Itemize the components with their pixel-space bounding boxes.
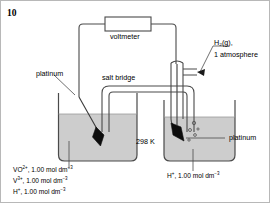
left-solution-line-1: VO2+, 1.00 mol dm−3	[13, 167, 73, 174]
diagram-figure: 10 voltmeter salt bridge platinum platin…	[0, 0, 270, 203]
platinum-label-left: platinum	[36, 70, 63, 78]
hydrogen-gas-label-line1: H₂(g),	[214, 39, 233, 47]
conc-3: , 1.00 mol dm	[20, 188, 60, 195]
exp-3: −3	[60, 187, 65, 192]
voltmeter-label: voltmeter	[110, 33, 140, 41]
left-solution-line-2: V3+, 1.00 mol dm−3	[13, 178, 68, 185]
exp-r1: −3	[214, 171, 219, 176]
voltmeter-box	[105, 17, 151, 31]
right-solution-line-1: H+, 1.00 mol dm−3	[167, 173, 219, 180]
right-solution-fill	[164, 117, 235, 161]
salt-bridge-label: salt bridge	[102, 74, 135, 82]
temperature-label: 298 K	[136, 138, 155, 146]
hydrogen-gas-label-line2: 1 atmosphere	[214, 51, 258, 59]
conc-2: , 1.00 mol dm	[23, 177, 63, 184]
hydrogen-tube-mouth	[171, 61, 183, 63]
species-1: VO	[13, 166, 23, 173]
platinum-label-right: platinum	[229, 134, 256, 142]
question-number: 10	[7, 9, 17, 19]
conc-r1: , 1.00 mol dm	[174, 172, 214, 179]
conc-1: , 1.00 mol dm	[28, 166, 68, 173]
exp-1: −3	[68, 165, 73, 170]
left-solution-line-3: H+, 1.00 mol dm−3	[13, 189, 65, 196]
exp-2: −3	[62, 176, 67, 181]
